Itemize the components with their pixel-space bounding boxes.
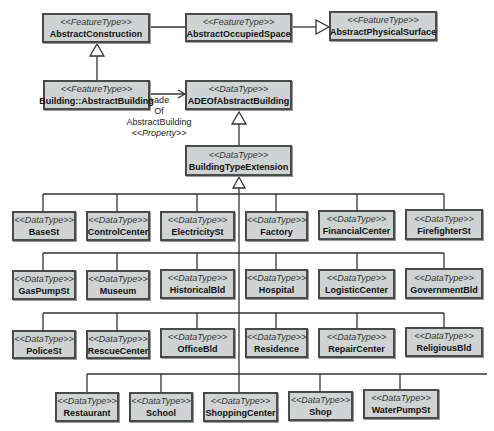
stereotype-label: <<DataType>> (414, 272, 473, 284)
class-police-st[interactable]: <<DataType>> PoliceSt (12, 330, 76, 359)
role-line-2: Of (124, 106, 194, 117)
class-name: FinancialCenter (323, 225, 391, 237)
class-financial-center[interactable]: <<DataType>> FinancialCenter (318, 210, 395, 240)
class-name: RepairCenter (328, 343, 385, 355)
class-name: AbstractPhysicalSurface (330, 26, 436, 38)
class-electricity-st[interactable]: <<DataType>> ElectricitySt (160, 211, 235, 241)
stereotype-label: <<DataType>> (131, 395, 190, 407)
class-name: School (146, 407, 176, 419)
stereotype-label: <<FeatureType>> (347, 14, 418, 26)
stereotype-label: <<DataType>> (168, 331, 227, 343)
class-building-type-extension[interactable]: <<DataType>> BuildingTypeExtension (185, 145, 292, 176)
stereotype-label: <<DataType>> (247, 331, 306, 343)
stereotype-label: <<DataType>> (327, 331, 386, 343)
class-factory[interactable]: <<DataType>> Factory (245, 211, 308, 241)
stereotype-label: <<DataType>> (247, 214, 306, 226)
class-logistic-center[interactable]: <<DataType>> LogisticCenter (318, 269, 395, 299)
class-name: AbstractOccupiedSpace (186, 28, 290, 40)
class-name: OfficeBld (177, 343, 217, 355)
stereotype-label: <<DataType>> (209, 83, 268, 95)
stereotype-label: <<FeatureType>> (203, 16, 274, 28)
class-religious-bld[interactable]: <<DataType>> ReligiousBld (405, 327, 483, 357)
class-abstract-construction[interactable]: <<FeatureType>> AbstractConstruction (42, 13, 150, 43)
class-ade-of-abstract-building[interactable]: <<DataType>> ADEOfAbstractBuilding (185, 80, 292, 110)
stereotype-label: <<DataType>> (291, 394, 350, 406)
class-name: Residence (254, 343, 299, 355)
class-abstract-physical-surface[interactable]: <<FeatureType>> AbstractPhysicalSurface (329, 11, 437, 41)
class-shopping-center[interactable]: <<DataType>> ShoppingCenter (203, 392, 278, 422)
class-gas-pump-st[interactable]: <<DataType>> GasPumpSt (12, 270, 76, 300)
stereotype-label: <<DataType>> (247, 272, 306, 284)
stereotype-label: <<DataType>> (57, 395, 116, 407)
class-base-st[interactable]: <<DataType>> BaseSt (12, 211, 76, 241)
class-historical-bld[interactable]: <<DataType>> HistoricalBld (160, 269, 235, 299)
class-name: BuildingTypeExtension (189, 161, 288, 173)
role-line-3: AbstractBuilding (124, 117, 194, 128)
class-name: ReligiousBld (416, 342, 471, 354)
stereotype-label: <<DataType>> (414, 213, 473, 225)
stereotype-label: <<DataType>> (88, 333, 147, 345)
association-stereotype: <<Property>> (124, 128, 194, 139)
class-control-center[interactable]: <<DataType>> ControlCenter (86, 211, 150, 241)
stereotype-label: <<DataType>> (168, 214, 227, 226)
stereotype-label: <<DataType>> (88, 214, 147, 226)
class-name: GasPumpSt (18, 285, 69, 297)
class-residence[interactable]: <<DataType>> Residence (245, 328, 308, 358)
class-name: ElectricitySt (171, 226, 223, 238)
stereotype-label: <<FeatureType>> (60, 16, 131, 28)
class-firefighter-st[interactable]: <<DataType>> FirefighterSt (405, 209, 483, 240)
class-shop[interactable]: <<DataType>> Shop (288, 391, 353, 421)
stereotype-label: <<DataType>> (14, 333, 73, 345)
class-name: AbstractConstruction (50, 28, 143, 40)
stereotype-label: <<DataType>> (209, 149, 268, 161)
class-name: Factory (260, 226, 293, 238)
class-name: RescueCenter (88, 345, 149, 357)
class-name: ControlCenter (88, 226, 149, 238)
class-name: BaseSt (29, 226, 60, 238)
association-role-label: +ade Of AbstractBuilding <<Property>> (124, 95, 194, 139)
class-name: Museum (100, 285, 137, 297)
class-name: LogisticCenter (325, 284, 388, 296)
class-name: ADEOfAbstractBuilding (188, 95, 290, 107)
class-rescue-center[interactable]: <<DataType>> RescueCenter (86, 330, 150, 359)
class-abstract-occupied-space[interactable]: <<FeatureType>> AbstractOccupiedSpace (185, 13, 292, 42)
class-repair-center[interactable]: <<DataType>> RepairCenter (318, 328, 395, 358)
class-name: Restaurant (63, 407, 110, 419)
class-government-bld[interactable]: <<DataType>> GovernmentBld (405, 268, 483, 299)
stereotype-label: <<DataType>> (14, 273, 73, 285)
class-office-bld[interactable]: <<DataType>> OfficeBld (160, 328, 235, 358)
class-name: Hospital (259, 284, 295, 296)
class-restaurant[interactable]: <<DataType>> Restaurant (55, 392, 119, 422)
stereotype-label: <<DataType>> (88, 273, 147, 285)
class-name: HistoricalBld (170, 284, 226, 296)
stereotype-label: <<DataType>> (14, 214, 73, 226)
stereotype-label: <<DataType>> (211, 395, 270, 407)
class-hospital[interactable]: <<DataType>> Hospital (245, 269, 308, 299)
class-name: Shop (309, 406, 332, 418)
class-school[interactable]: <<DataType>> School (129, 392, 193, 422)
class-name: GovernmentBld (410, 284, 478, 296)
stereotype-label: <<DataType>> (168, 272, 227, 284)
stereotype-label: <<DataType>> (414, 330, 473, 342)
class-name: PoliceSt (26, 345, 62, 357)
class-name: ShoppingCenter (206, 407, 276, 419)
class-museum[interactable]: <<DataType>> Museum (86, 270, 150, 300)
class-name: WaterPumpSt (372, 404, 431, 416)
stereotype-label: <<FeatureType>> (61, 83, 132, 95)
class-water-pump-st[interactable]: <<DataType>> WaterPumpSt (363, 389, 439, 419)
stereotype-label: <<DataType>> (327, 272, 386, 284)
stereotype-label: <<DataType>> (371, 392, 430, 404)
role-line-1: +ade (124, 95, 194, 106)
class-name: FirefighterSt (417, 225, 471, 237)
stereotype-label: <<DataType>> (327, 213, 386, 225)
